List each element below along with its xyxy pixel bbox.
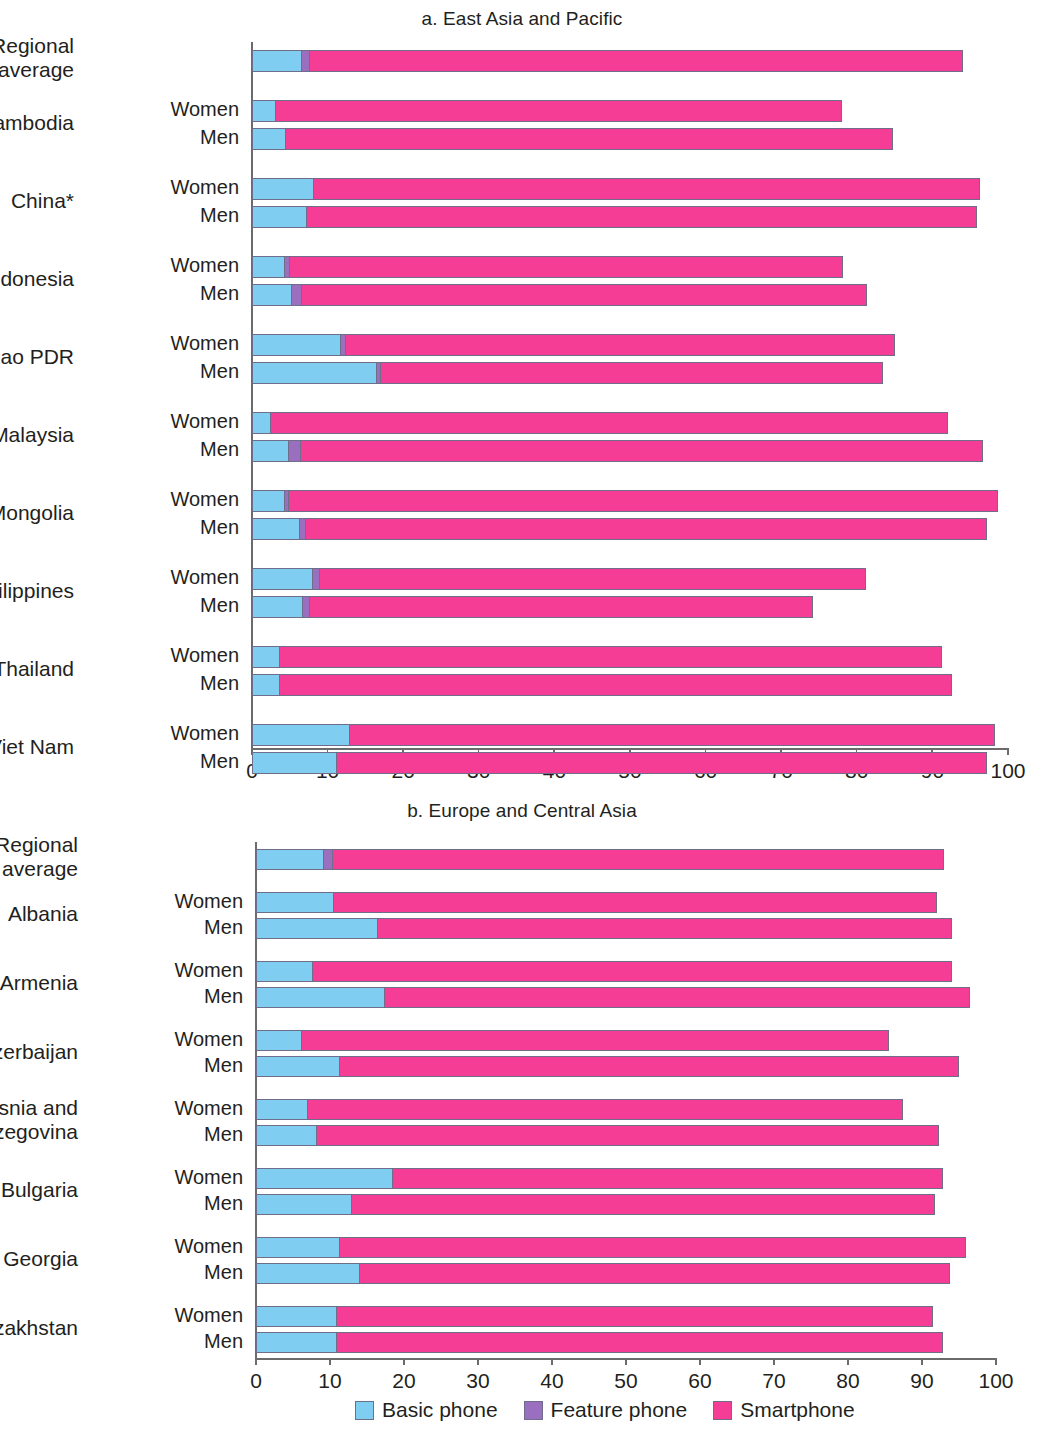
bar-segment-smartphone xyxy=(337,1332,942,1353)
bar-segment-basic-phone xyxy=(252,178,314,200)
bar-segment-smartphone xyxy=(381,362,883,384)
x-axis-tick-label: 60 xyxy=(688,1369,711,1393)
legend-item[interactable]: Smartphone xyxy=(713,1398,854,1422)
x-axis-tick xyxy=(699,1358,701,1365)
bar-segment-feature-phone xyxy=(300,518,307,540)
bar-row xyxy=(256,961,952,982)
bar-segment-basic-phone xyxy=(252,752,337,774)
bar-segment-smartphone xyxy=(333,849,944,870)
x-axis-tick xyxy=(847,1358,849,1365)
category-label: Armenia xyxy=(0,971,78,995)
x-axis-tick-label: 0 xyxy=(250,1369,262,1393)
gender-label-women: Women xyxy=(91,1235,243,1258)
gender-label-men: Men xyxy=(91,1123,243,1146)
bar-segment-smartphone xyxy=(271,412,948,434)
bar-segment-smartphone xyxy=(302,1030,889,1051)
gender-label-men: Men xyxy=(87,438,239,461)
panel-a-plot-area: 0102030405060708090100RegionalaverageWom… xyxy=(0,0,1044,790)
bar-segment-smartphone xyxy=(308,1099,904,1120)
bar-segment-basic-phone xyxy=(256,892,334,913)
gender-label-men: Men xyxy=(87,672,239,695)
bar-segment-smartphone xyxy=(385,987,970,1008)
category-label: Bulgaria xyxy=(0,1178,78,1202)
gender-label-men: Men xyxy=(87,204,239,227)
category-label: Philippines xyxy=(0,579,74,603)
bar-row xyxy=(256,1056,959,1077)
bar-segment-basic-phone xyxy=(256,987,385,1008)
bar-segment-smartphone xyxy=(280,646,942,668)
bar-row xyxy=(252,284,867,306)
bar-segment-smartphone xyxy=(337,1306,933,1327)
legend-swatch-smart-icon xyxy=(713,1401,732,1420)
bar-row xyxy=(256,1194,935,1215)
bar-segment-basic-phone xyxy=(252,284,292,306)
bar-segment-basic-phone xyxy=(256,1056,340,1077)
bar-row xyxy=(256,1030,889,1051)
x-axis-tick xyxy=(995,1358,997,1365)
bar-row xyxy=(252,490,998,512)
bar-row xyxy=(252,50,963,72)
bar-segment-smartphone xyxy=(302,284,867,306)
bar-segment-smartphone xyxy=(334,892,937,913)
gender-label-men: Men xyxy=(91,985,243,1008)
bar-row xyxy=(256,1099,903,1120)
bar-segment-feature-phone xyxy=(324,849,333,870)
bar-segment-smartphone xyxy=(280,674,952,696)
bar-segment-smartphone xyxy=(346,334,895,356)
legend-item[interactable]: Basic phone xyxy=(355,1398,498,1422)
bar-row xyxy=(252,412,948,434)
category-label: Kazakhstan xyxy=(0,1316,78,1340)
category-label: Malaysia xyxy=(0,423,74,447)
category-label: Albania xyxy=(0,902,78,926)
chart-legend: Basic phoneFeature phoneSmartphone xyxy=(355,1398,855,1422)
category-label: Indonesia xyxy=(0,267,74,291)
x-axis-tick xyxy=(255,1358,257,1365)
category-label-line: Regional xyxy=(0,833,78,857)
bar-row xyxy=(252,128,893,150)
bar-segment-basic-phone xyxy=(252,596,303,618)
legend-item[interactable]: Feature phone xyxy=(524,1398,688,1422)
bar-segment-basic-phone xyxy=(252,646,280,668)
bar-segment-smartphone xyxy=(314,178,980,200)
x-axis-tick-label: 40 xyxy=(540,1369,563,1393)
gender-label-women: Women xyxy=(87,722,239,745)
bar-row xyxy=(252,518,987,540)
bar-row xyxy=(256,1263,950,1284)
bar-segment-smartphone xyxy=(289,490,998,512)
x-axis-tick xyxy=(551,1358,553,1365)
gender-label-men: Men xyxy=(91,1261,243,1284)
x-axis-tick xyxy=(1007,748,1009,755)
bar-segment-smartphone xyxy=(301,440,983,462)
x-axis-tick-label: 100 xyxy=(978,1369,1013,1393)
bar-row xyxy=(252,178,980,200)
x-axis-tick-label: 50 xyxy=(614,1369,637,1393)
category-label: Georgia xyxy=(0,1247,78,1271)
bar-segment-basic-phone xyxy=(252,362,377,384)
gender-label-women: Women xyxy=(87,98,239,121)
bar-segment-smartphone xyxy=(393,1168,943,1189)
bar-segment-basic-phone xyxy=(252,490,285,512)
bar-segment-basic-phone xyxy=(256,1194,352,1215)
bar-row xyxy=(252,596,813,618)
legend-item-label: Basic phone xyxy=(382,1398,498,1422)
x-axis-tick-label: 20 xyxy=(392,1369,415,1393)
bar-segment-feature-phone xyxy=(292,284,302,306)
x-axis-tick xyxy=(329,1358,331,1365)
bar-row xyxy=(252,440,983,462)
bar-segment-smartphone xyxy=(310,50,962,72)
bar-segment-smartphone xyxy=(307,206,977,228)
gender-label-women: Women xyxy=(87,644,239,667)
gender-label-women: Women xyxy=(91,1097,243,1120)
bar-segment-smartphone xyxy=(313,961,952,982)
bar-segment-basic-phone xyxy=(252,256,285,278)
bar-segment-feature-phone xyxy=(303,596,310,618)
gender-label-women: Women xyxy=(87,488,239,511)
gender-label-women: Women xyxy=(87,332,239,355)
chart-panel-europe-central-asia: b. Europe and Central Asia 0102030405060… xyxy=(0,795,1044,1395)
x-axis-tick-label: 80 xyxy=(836,1369,859,1393)
bar-segment-smartphone xyxy=(310,596,813,618)
bar-row xyxy=(256,1237,966,1258)
category-label: Azerbaijan xyxy=(0,1040,78,1064)
bar-segment-basic-phone xyxy=(256,849,324,870)
bar-segment-smartphone xyxy=(286,128,893,150)
